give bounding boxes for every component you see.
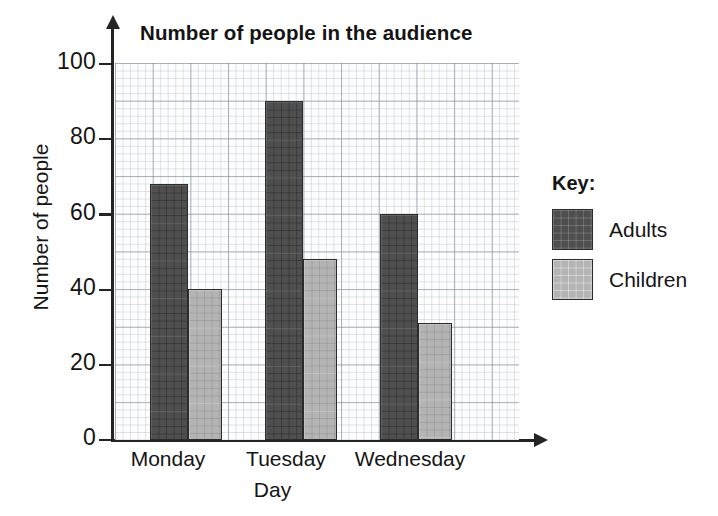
- x-tick-label-monday: Monday: [113, 447, 223, 471]
- y-tick-label-60: 60: [70, 199, 96, 226]
- y-tick-80: [99, 138, 113, 140]
- x-axis-arrow-icon: [534, 433, 548, 447]
- legend-swatch-adults: [552, 209, 593, 250]
- bar-monday-adults[interactable]: [150, 184, 188, 440]
- chart-title: Number of people in the audience: [140, 21, 472, 45]
- legend-item-adults[interactable]: Adults: [552, 209, 718, 250]
- y-tick-60: [99, 213, 113, 215]
- y-tick-label-20: 20: [70, 349, 96, 376]
- legend-item-children[interactable]: Children: [552, 259, 718, 300]
- x-tick-label-tuesday: Tuesday: [234, 447, 338, 471]
- bar-wednesday-children[interactable]: [418, 323, 452, 440]
- plot-area: [115, 63, 519, 440]
- y-tick-40: [99, 289, 113, 291]
- chart-legend: Key: Adults Children: [552, 172, 718, 309]
- x-tick-label-wednesday: Wednesday: [340, 447, 480, 471]
- legend-label-children: Children: [609, 268, 687, 292]
- bar-wednesday-adults[interactable]: [380, 214, 418, 440]
- legend-title: Key:: [552, 172, 718, 195]
- y-tick-label-40: 40: [70, 274, 96, 301]
- y-tick-20: [99, 364, 113, 366]
- y-tick-label-0: 0: [83, 424, 96, 451]
- bar-monday-children[interactable]: [188, 289, 222, 440]
- bars-layer: [115, 63, 519, 440]
- y-axis-title: Number of people: [29, 102, 53, 352]
- legend-swatch-children: [552, 259, 593, 300]
- bar-tuesday-children[interactable]: [303, 259, 337, 440]
- bar-tuesday-adults[interactable]: [265, 101, 303, 440]
- y-tick-label-100: 100: [57, 48, 96, 75]
- legend-label-adults: Adults: [609, 218, 667, 242]
- y-axis-line: [111, 26, 114, 441]
- y-tick-0: [99, 439, 113, 441]
- y-axis-arrow-icon: [106, 15, 120, 29]
- chart-figure: Number of people in the audience 100 80 …: [0, 0, 718, 516]
- x-axis-title: Day: [0, 478, 545, 502]
- y-tick-label-80: 80: [70, 123, 96, 150]
- y-tick-100: [99, 63, 113, 65]
